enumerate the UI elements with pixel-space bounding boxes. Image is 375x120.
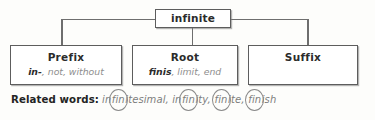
related-word-suffix: ite,	[228, 94, 244, 105]
prefix-title: Prefix	[11, 51, 121, 64]
related-word: finish	[248, 94, 277, 105]
circled-root-marker: fin	[214, 92, 228, 107]
connector-left-arm	[62, 20, 155, 46]
prefix-term: in-	[28, 66, 42, 77]
related-word-prefix: in	[172, 94, 181, 105]
root-definition: , limit, end	[171, 66, 221, 77]
circled-root-marker: fin	[248, 92, 262, 107]
related-word: infinity,	[172, 94, 211, 105]
related-word: infinitesimal,	[102, 94, 169, 105]
root-title: Root	[133, 51, 237, 64]
suffix-title: Suffix	[249, 51, 357, 64]
related-word: finite,	[214, 94, 244, 105]
prefix-box: Prefix in-, not, without	[10, 45, 122, 85]
related-word-suffix: ity,	[195, 94, 210, 105]
related-word-suffix: ish	[262, 94, 277, 105]
related-word-suffix: itesimal,	[125, 94, 169, 105]
circled-root-marker: fin	[181, 92, 195, 107]
headword-label: infinite	[171, 13, 215, 24]
root-meaning: finis, limit, end	[133, 65, 237, 79]
root-box: Root finis, limit, end	[132, 45, 238, 85]
prefix-definition: , not, without	[42, 66, 104, 77]
related-word-prefix: in	[102, 94, 111, 105]
suffix-box: Suffix	[248, 45, 358, 85]
related-words-label: Related words:	[11, 94, 99, 105]
root-term: finis	[149, 66, 172, 77]
connector-right-arm	[231, 20, 308, 46]
related-words-row: Related words:infinitesimal, infinity, f…	[11, 90, 276, 107]
related-words-list: infinitesimal, infinity, finite, finish	[102, 94, 276, 105]
headword-box: infinite	[155, 9, 231, 28]
word-analysis-diagram: infinite Prefix in-, not, without Root f…	[0, 0, 375, 120]
prefix-meaning: in-, not, without	[11, 65, 121, 79]
circled-root-marker: fin	[111, 92, 125, 107]
